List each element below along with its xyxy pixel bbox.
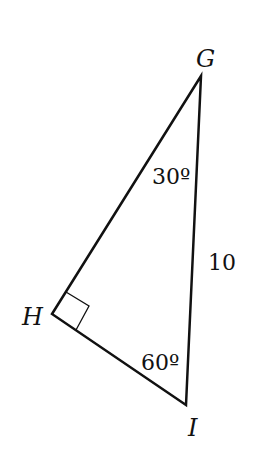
right-angle-marker — [66, 292, 89, 330]
angle-label-g: 30º — [152, 164, 190, 189]
vertex-label-g: G — [196, 45, 215, 73]
angle-label-i: 60º — [141, 350, 179, 375]
side-label-gi: 10 — [208, 250, 236, 275]
triangle-diagram: G H I 30º 60º 10 — [0, 0, 256, 467]
vertex-label-h: H — [21, 303, 44, 331]
vertex-label-i: I — [187, 414, 198, 442]
